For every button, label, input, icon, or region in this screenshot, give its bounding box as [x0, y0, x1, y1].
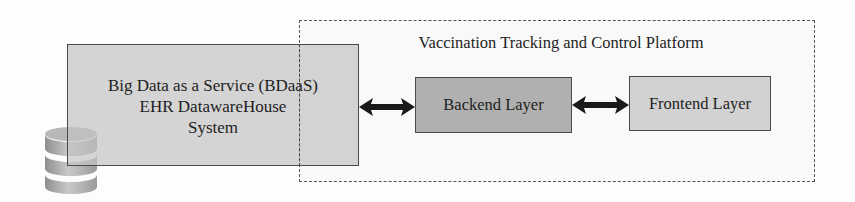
platform-title: Vaccination Tracking and Control Platfor… — [300, 33, 816, 53]
bdaas-box: Big Data as a Service (BDaaS) EHR Datawa… — [67, 44, 359, 166]
backend-layer-label: Backend Layer — [443, 95, 543, 115]
bdaas-label: Big Data as a Service (BDaaS) EHR Datawa… — [68, 75, 358, 138]
bdaas-label-line1: Big Data as a Service (BDaaS) — [68, 75, 358, 96]
bidirectional-arrow-icon — [358, 96, 416, 118]
platform-border-overlap — [299, 44, 300, 166]
frontend-layer-box: Frontend Layer — [629, 76, 771, 131]
bdaas-label-line2: EHR DatawareHouse — [68, 96, 358, 117]
bidirectional-arrow-icon — [571, 94, 630, 116]
bdaas-label-line3: System — [68, 117, 358, 138]
backend-layer-box: Backend Layer — [415, 77, 572, 133]
frontend-layer-label: Frontend Layer — [649, 94, 751, 114]
